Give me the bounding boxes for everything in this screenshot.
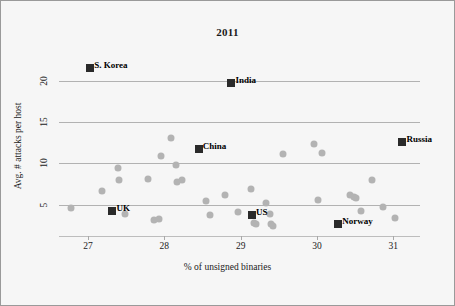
data-point[interactable] [158,152,165,159]
y-tick-label: 5 [39,202,49,207]
scatter-chart: 2011 Avg. # attacks per host % of unsign… [0,0,455,306]
x-tick-label: 30 [312,241,322,251]
data-point-highlighted[interactable] [227,79,235,87]
data-point[interactable] [207,211,214,218]
data-point[interactable] [315,196,322,203]
x-tick-mark [317,236,318,240]
data-point[interactable] [172,161,179,168]
data-label-india: India [235,75,256,85]
data-point[interactable] [247,185,254,192]
data-point[interactable] [221,191,228,198]
data-label-russia: Russia [406,134,432,144]
data-point[interactable] [115,176,122,183]
y-axis-title: Avg. # attacks per host [13,103,23,190]
data-label-norway: Norway [342,216,373,226]
data-point[interactable] [391,214,398,221]
data-point[interactable] [352,195,359,202]
x-axis-line [59,236,420,237]
data-point[interactable] [155,216,162,223]
x-tick-label: 27 [83,241,93,251]
data-point[interactable] [144,176,151,183]
data-point[interactable] [279,151,286,158]
data-point[interactable] [262,199,269,206]
x-axis-title: % of unsigned binaries [0,262,455,272]
y-tick-label: 10 [39,159,49,169]
chart-title: 2011 [0,26,455,38]
data-point-highlighted[interactable] [398,138,406,146]
data-label-s-korea: S. Korea [94,60,127,70]
x-tick-mark [164,236,165,240]
data-point-highlighted[interactable] [248,211,256,219]
data-point[interactable] [98,187,105,194]
gridline-y-10 [59,163,420,164]
data-point[interactable] [68,204,75,211]
data-point[interactable] [252,221,259,228]
data-label-us: US [256,207,268,217]
data-point-highlighted[interactable] [86,64,94,72]
data-point[interactable] [318,150,325,157]
data-point[interactable] [178,176,185,183]
data-point-highlighted[interactable] [334,220,342,228]
x-tick-label: 28 [160,241,170,251]
y-tick-label: 20 [39,76,49,86]
x-tick-mark [241,236,242,240]
y-tick-label: 15 [39,117,49,127]
data-point[interactable] [270,223,277,230]
data-point[interactable] [310,141,317,148]
data-point[interactable] [235,209,242,216]
data-point[interactable] [379,204,386,211]
data-point[interactable] [168,134,175,141]
data-point-highlighted[interactable] [108,207,116,215]
data-label-uk: UK [116,203,130,213]
x-tick-label: 31 [389,241,399,251]
x-tick-mark [393,236,394,240]
gridline-y-5 [59,205,420,206]
data-point[interactable] [114,165,121,172]
data-point[interactable] [358,208,365,215]
gridline-y-15 [59,122,420,123]
data-point[interactable] [203,198,210,205]
x-tick-label: 29 [236,241,246,251]
x-tick-mark [88,236,89,240]
data-point[interactable] [368,176,375,183]
data-point-highlighted[interactable] [195,145,203,153]
data-label-china: China [203,141,227,151]
